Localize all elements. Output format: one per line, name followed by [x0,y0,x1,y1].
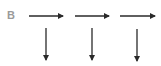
vertical-arrows [46,28,137,61]
arrow-diagram [0,0,161,66]
